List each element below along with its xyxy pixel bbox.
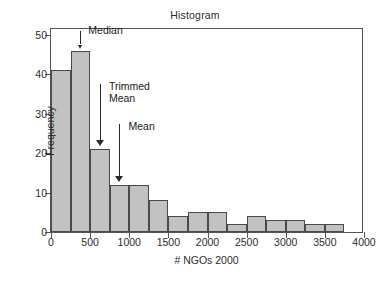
annotation-arrow-head: [96, 140, 104, 146]
x-tick-label: 0: [48, 236, 54, 248]
histogram-bar: [71, 51, 91, 232]
histogram-chart: Histogram 01020304050 050010001500200025…: [0, 0, 390, 281]
histogram-bar: [208, 212, 228, 232]
y-tick-label: 0: [41, 226, 47, 238]
y-axis-label: Frequency: [44, 106, 56, 156]
histogram-bar: [305, 224, 325, 232]
histogram-bar: [227, 224, 247, 232]
x-tick-label: 3000: [274, 236, 297, 248]
histogram-bar: [110, 185, 130, 232]
histogram-bar: [286, 220, 306, 232]
histogram-bar: [129, 185, 149, 232]
annotation-label: Median: [88, 25, 122, 37]
plot-area: 01020304050 0500100015002000250030003500…: [50, 28, 363, 233]
chart-title: Histogram: [0, 9, 390, 21]
histogram-bar: [149, 200, 169, 232]
histogram-bar: [188, 212, 208, 232]
y-tick-label: 50: [35, 29, 47, 41]
annotation-arrow-line: [80, 31, 81, 45]
histogram-bar: [266, 220, 286, 232]
x-tick-label: 500: [81, 236, 99, 248]
x-tick-label: 2500: [235, 236, 258, 248]
plot-inner: 01020304050 0500100015002000250030003500…: [51, 29, 362, 232]
annotation-label: Trimmed Mean: [109, 81, 150, 104]
histogram-bar: [168, 216, 188, 232]
y-tick-label: 40: [35, 68, 47, 80]
x-tick-label: 1000: [118, 236, 141, 248]
x-tick-label: 1500: [157, 236, 180, 248]
x-axis-label: # NGOs 2000: [51, 254, 362, 266]
histogram-bar: [90, 149, 110, 232]
annotation-arrow-head: [78, 45, 82, 49]
annotation-arrow-line: [119, 124, 120, 177]
annotation-arrow-line: [100, 84, 101, 141]
x-tick-label: 3500: [313, 236, 336, 248]
histogram-bar: [325, 224, 345, 232]
x-tick-label: 2000: [196, 236, 219, 248]
y-tick-label: 10: [35, 187, 47, 199]
bars-layer: [51, 29, 362, 232]
x-tick-label: 4000: [352, 236, 375, 248]
histogram-bar: [247, 216, 267, 232]
annotation-arrow-head: [115, 176, 123, 182]
annotation-label: Mean: [128, 121, 154, 133]
